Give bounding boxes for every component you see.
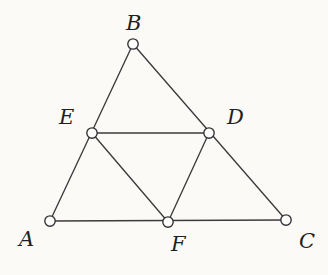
vertex-label-a: A — [19, 229, 34, 250]
vertex-label-e: E — [59, 107, 74, 128]
vertex-label-c: C — [299, 231, 315, 252]
vertex-label-f: F — [171, 234, 186, 255]
vertex-point-d — [204, 128, 214, 138]
vertex-point-c — [281, 215, 291, 225]
vertex-point-b — [128, 39, 138, 49]
segment-e-f — [92, 133, 168, 222]
vertex-label-b: B — [126, 13, 141, 34]
segment-d-f — [168, 133, 209, 222]
vertex-label-d: D — [227, 107, 244, 128]
geometry-canvas — [0, 0, 328, 275]
edges-group — [50, 44, 286, 222]
vertex-point-f — [163, 217, 173, 227]
geometry-figure: ABCDEF — [0, 0, 328, 275]
vertex-point-a — [45, 216, 55, 226]
vertex-point-e — [87, 128, 97, 138]
